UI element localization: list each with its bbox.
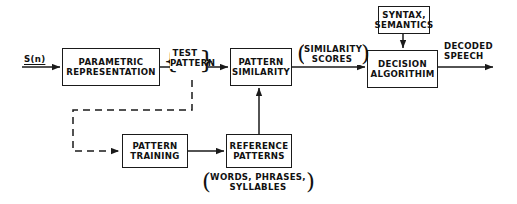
block-similarity-line2: SIMILARITY [232, 67, 290, 77]
block-syntax-line1: SYNTAX, [382, 10, 425, 20]
block-reference-line2: PATTERNS [233, 151, 285, 161]
block-parametric-line1: PARAMETRIC [79, 57, 144, 67]
paren-right-scores-icon: ) [361, 42, 370, 65]
block-parametric-line2: REPRESENTATION [66, 67, 155, 77]
label-reference-note-line2: SYLLABLES [209, 182, 307, 192]
label-input-signal: S(n) [24, 54, 45, 64]
label-decoded-speech-line1: DECODED [444, 41, 493, 51]
block-training-line2: TRAINING [130, 151, 179, 161]
label-test-pattern-line1: TEST [170, 48, 200, 58]
block-reference-patterns[interactable]: REFERENCE PATTERNS [226, 134, 292, 168]
diagram-canvas: PARAMETRIC REPRESENTATION PATTERN SIMILA… [0, 0, 517, 204]
block-pattern-similarity[interactable]: PATTERN SIMILARITY [230, 48, 292, 86]
label-reference-note: WORDS, PHRASES, SYLLABLES [209, 172, 307, 193]
block-decision-algorithm[interactable]: DECISION ALGORITHIM [367, 50, 438, 88]
block-parametric-representation[interactable]: PARAMETRIC REPRESENTATION [62, 48, 160, 86]
label-reference-note-line1: WORDS, PHRASES, [209, 172, 307, 182]
label-similarity-scores: SIMILARITY SCORES [304, 44, 360, 65]
label-similarity-scores-line1: SIMILARITY [304, 44, 360, 54]
label-similarity-scores-line2: SCORES [304, 54, 360, 64]
block-training-line1: PATTERN [132, 141, 177, 151]
block-syntax-semantics[interactable]: SYNTAX, SEMANTICS [378, 6, 430, 34]
block-pattern-training[interactable]: PATTERN TRAINING [122, 134, 188, 168]
block-syntax-line2: SEMANTICS [375, 20, 434, 30]
label-decoded-speech-line2: SPEECH [444, 51, 493, 61]
label-test-pattern-line2: PATTERN [170, 58, 200, 68]
block-reference-line1: REFERENCE [230, 141, 289, 151]
block-decision-line1: DECISION [378, 59, 427, 69]
paren-right-reference-icon: ) [306, 170, 315, 193]
block-similarity-line1: PATTERN [238, 57, 283, 67]
label-test-pattern: TEST PATTERN [170, 48, 200, 69]
block-decision-line2: ALGORITHIM [370, 69, 434, 79]
label-decoded-speech: DECODED SPEECH [444, 41, 493, 62]
